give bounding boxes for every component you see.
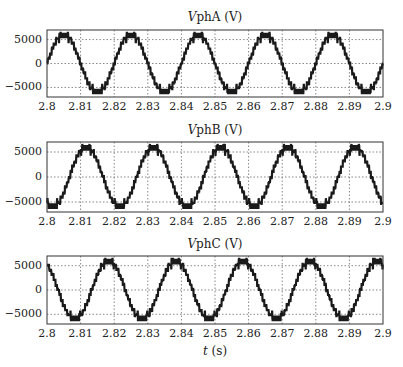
y-tick-label: 0 <box>0 57 42 70</box>
x-tick-label: 2.81 <box>66 215 96 228</box>
x-tick-label: 2.82 <box>99 327 129 340</box>
x-axis-title: t (s) <box>47 344 383 358</box>
x-tick-label: 2.85 <box>200 100 230 113</box>
x-tick-label: 2.89 <box>334 215 364 228</box>
x-axis-unit: (s) <box>208 344 227 358</box>
x-tick-label: 2.89 <box>334 327 364 340</box>
y-tick-label: 5000 <box>0 33 42 46</box>
x-tick-label: 2.9 <box>368 327 398 340</box>
x-tick-label: 2.8 <box>32 327 62 340</box>
x-tick-label: 2.83 <box>133 100 163 113</box>
x-tick-label: 2.88 <box>301 215 331 228</box>
chart-1 <box>47 30 383 97</box>
y-tick-label: 0 <box>0 283 42 296</box>
x-tick-label: 2.87 <box>267 327 297 340</box>
x-tick-label: 2.9 <box>368 215 398 228</box>
x-tick-label: 2.87 <box>267 100 297 113</box>
x-tick-label: 2.8 <box>32 215 62 228</box>
y-tick-label: −5000 <box>0 80 42 93</box>
x-tick-label: 2.85 <box>200 327 230 340</box>
plots-canvas <box>0 0 403 367</box>
x-tick-label: 2.88 <box>301 327 331 340</box>
x-tick-label: 2.86 <box>234 100 264 113</box>
x-tick-label: 2.86 <box>234 327 264 340</box>
x-tick-label: 2.84 <box>166 215 196 228</box>
y-tick-label: −5000 <box>0 307 42 320</box>
x-tick-label: 2.87 <box>267 215 297 228</box>
x-tick-label: 2.8 <box>32 100 62 113</box>
y-tick-label: −5000 <box>0 195 42 208</box>
y-tick-label: 5000 <box>0 145 42 158</box>
x-tick-label: 2.83 <box>133 327 163 340</box>
y-tick-label: 5000 <box>0 259 42 272</box>
x-tick-label: 2.9 <box>368 100 398 113</box>
chart-2 <box>47 142 383 212</box>
x-tick-label: 2.84 <box>166 327 196 340</box>
x-tick-label: 2.83 <box>133 215 163 228</box>
x-tick-label: 2.81 <box>66 100 96 113</box>
x-tick-label: 2.82 <box>99 100 129 113</box>
y-tick-label: 0 <box>0 170 42 183</box>
x-tick-label: 2.82 <box>99 215 129 228</box>
x-tick-label: 2.84 <box>166 100 196 113</box>
x-tick-label: 2.86 <box>234 215 264 228</box>
chart-3 <box>47 256 383 324</box>
x-tick-label: 2.88 <box>301 100 331 113</box>
x-tick-label: 2.81 <box>66 327 96 340</box>
x-tick-label: 2.85 <box>200 215 230 228</box>
x-tick-label: 2.89 <box>334 100 364 113</box>
